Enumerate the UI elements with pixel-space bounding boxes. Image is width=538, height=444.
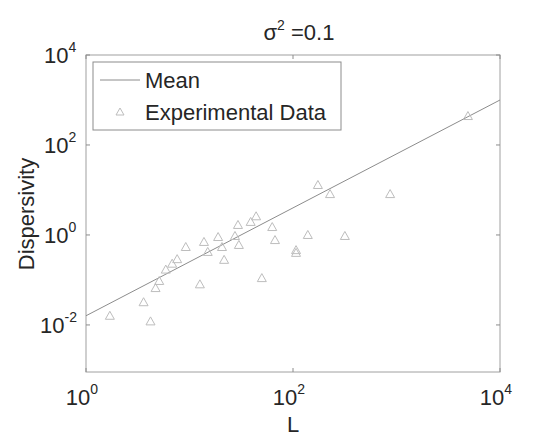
y-tick-label: 102 bbox=[44, 129, 76, 158]
y-axis-title: Dispersivity bbox=[14, 158, 39, 270]
x-tick-label: 104 bbox=[480, 381, 512, 410]
legend-label-experimental-data: Experimental Data bbox=[145, 100, 327, 125]
y-tick-label: 10-2 bbox=[40, 309, 77, 338]
chart-title: σ2 =0.1 bbox=[264, 17, 335, 45]
x-tick-label: 102 bbox=[273, 381, 305, 410]
legend: Mean Experimental Data bbox=[93, 62, 341, 130]
x-axis-title: L bbox=[287, 412, 299, 437]
y-tick-label: 104 bbox=[44, 39, 76, 68]
x-tick-label: 100 bbox=[66, 381, 98, 410]
y-tick-label: 100 bbox=[44, 219, 76, 248]
chart: σ2 =0.1 10010210410-2100102104 Mean Expe… bbox=[0, 0, 538, 444]
legend-label-mean: Mean bbox=[145, 68, 200, 93]
